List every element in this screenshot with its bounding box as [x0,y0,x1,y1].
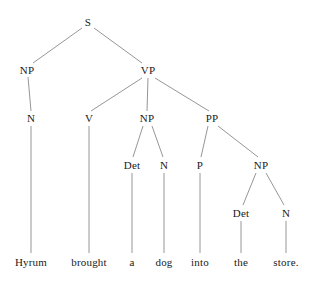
tree-node-det-object: Det [124,160,140,171]
tree-node-det-prep: Det [233,208,249,219]
edge-vp-pp [155,78,209,111]
edge-np2-n [266,173,284,205]
tree-leaf-dog: dog [155,257,172,268]
edge-np2-det [243,173,256,205]
syntax-tree-diagram: S NP VP N V NP PP Det N P NP Det N Hyrum… [0,0,315,283]
edge-s-vp [94,28,142,63]
tree-edges-layer [0,0,315,283]
tree-node-n-subject: N [27,113,35,124]
tree-node-v: V [85,113,93,124]
tree-node-vp: VP [141,65,155,76]
edge-np-det [133,126,143,157]
tree-leaf-the: the [234,257,248,268]
tree-leaf-store: store. [273,257,298,268]
tree-node-s: S [85,17,91,28]
edge-vp-v [91,78,142,111]
tree-node-n-prep: N [282,208,290,219]
edge-pp-p [201,126,208,157]
tree-leaf-into: into [191,257,209,268]
tree-node-n-object: N [160,160,168,171]
tree-node-p: P [197,160,203,171]
edge-s-np [33,28,82,63]
tree-node-np-subject: NP [20,65,34,76]
edge-pp-np [218,126,258,157]
edge-np-n2 [152,126,163,157]
tree-leaf-a: a [129,257,134,268]
tree-node-np-prep: NP [254,160,268,171]
tree-leaf-brought: brought [71,257,107,268]
edge-np-n [28,77,31,111]
edge-vp-np [147,78,148,111]
tree-node-np-object: NP [140,113,154,124]
tree-node-pp: PP [206,113,219,124]
tree-leaf-hyrum: Hyrum [15,257,47,268]
